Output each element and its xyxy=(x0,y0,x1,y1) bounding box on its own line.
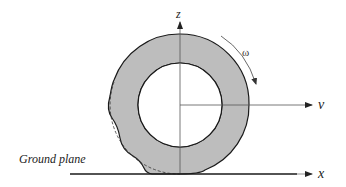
z-axis-label: z xyxy=(175,7,181,21)
v-axis-label: v xyxy=(318,97,325,112)
x-axis-label: x xyxy=(317,166,325,181)
tire-diagram: z v x Ground plane ω xyxy=(0,0,346,187)
omega-label: ω xyxy=(242,46,249,58)
ground-plane-label: Ground plane xyxy=(19,152,86,166)
